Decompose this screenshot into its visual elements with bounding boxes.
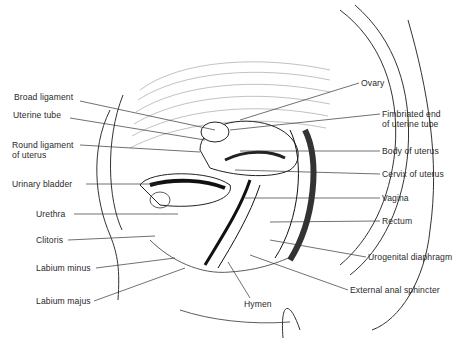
label-urinary-bladder: Urinary bladder: [12, 179, 72, 189]
label-ovary: Ovary: [361, 78, 384, 88]
label-cervix-of-uterus: Cervix of uterus: [382, 169, 444, 179]
label-labium-minus: Labium minus: [36, 263, 91, 273]
label-round-ligament-line1: Round ligament: [12, 140, 74, 150]
anatomy-diagram: Broad ligament Uterine tube Round ligame…: [0, 0, 465, 338]
label-vagina: Vagina: [382, 193, 409, 203]
label-hymen: Hymen: [244, 299, 272, 309]
label-uterine-tube: Uterine tube: [13, 110, 61, 120]
label-urogenital-diaphragm: Urogenital diaphragm: [368, 252, 452, 262]
label-clitoris: Clitoris: [36, 235, 63, 245]
label-fimbriated-end-line2: of uterine tube: [382, 119, 438, 129]
label-broad-ligament: Broad ligament: [14, 92, 73, 102]
label-labium-majus: Labium majus: [36, 296, 91, 306]
label-urethra: Urethra: [36, 209, 65, 219]
label-fimbriated-end-line1: Fimbriated end: [382, 109, 441, 119]
label-fimbriated-end: Fimbriated endof uterine tube: [382, 109, 441, 129]
label-round-ligament: Round ligamentof uterus: [12, 140, 74, 160]
label-rectum: Rectum: [382, 216, 412, 226]
label-body-of-uterus: Body of uterus: [382, 146, 439, 156]
label-round-ligament-line2: of uterus: [12, 150, 46, 160]
label-external-anal-sphincter: External anal sphincter: [350, 285, 440, 295]
